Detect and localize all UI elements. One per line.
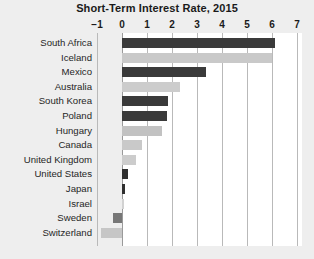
gridline <box>272 33 273 246</box>
category-label: Israel <box>0 199 92 209</box>
category-label: Australia <box>0 82 92 92</box>
bar <box>122 67 206 77</box>
bar <box>122 199 124 209</box>
bar <box>122 155 136 165</box>
plot-area <box>97 33 302 246</box>
category-label: Poland <box>0 111 92 121</box>
gridline <box>97 33 98 246</box>
x-tick-label: 2 <box>169 19 175 30</box>
category-label: United Kingdom <box>0 155 92 165</box>
x-tick-label: 7 <box>294 19 300 30</box>
bar <box>122 82 180 92</box>
gridline <box>172 33 173 246</box>
plot-background <box>122 33 302 246</box>
bar <box>122 53 272 63</box>
bar <box>122 169 128 179</box>
category-label: United States <box>0 169 92 179</box>
x-tick-label: 1 <box>144 19 150 30</box>
bar <box>122 96 168 106</box>
category-label: South Korea <box>0 96 92 106</box>
gridline <box>147 33 148 246</box>
category-label: Japan <box>0 184 92 194</box>
category-axis-labels: South AfricaIcelandMexicoAustraliaSouth … <box>0 36 92 250</box>
gridline <box>197 33 198 246</box>
bar <box>122 126 162 136</box>
bar <box>122 38 275 48</box>
interest-rate-bar-chart: Short-Term Interest Rate, 2015 −10123456… <box>0 0 314 259</box>
x-tick-label: 0 <box>119 19 125 30</box>
bar <box>122 140 142 150</box>
chart-title: Short-Term Interest Rate, 2015 <box>0 2 314 14</box>
bar <box>122 184 125 194</box>
gridline <box>222 33 223 246</box>
x-tick-label: 3 <box>194 19 200 30</box>
x-tick-label: 5 <box>244 19 250 30</box>
gridline <box>247 33 248 246</box>
x-tick-label: 4 <box>219 19 225 30</box>
category-label: Sweden <box>0 213 92 223</box>
category-label: Iceland <box>0 53 92 63</box>
bar <box>101 228 122 238</box>
gridline <box>297 33 298 246</box>
x-tick-label: 6 <box>269 19 275 30</box>
bar <box>113 213 122 223</box>
category-label: Canada <box>0 140 92 150</box>
category-label: Switzerland <box>0 228 92 238</box>
bar <box>122 111 167 121</box>
category-label: Hungary <box>0 126 92 136</box>
category-label: South Africa <box>0 38 92 48</box>
x-tick-label: −1 <box>91 19 102 30</box>
figure-bottom-margin <box>0 246 314 259</box>
category-label: Mexico <box>0 67 92 77</box>
x-axis-tick-labels: −101234567 <box>0 19 314 33</box>
